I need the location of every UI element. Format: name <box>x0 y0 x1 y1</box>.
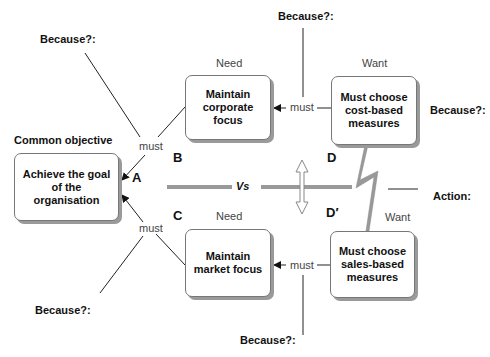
box-d-heading: Want <box>362 57 387 69</box>
box-c-need: Maintain market focus <box>185 229 271 297</box>
because-right: Because?: <box>430 104 486 116</box>
must-label-b-a: must <box>139 140 163 152</box>
box-d-text: Must choose cost-based measures <box>336 91 412 130</box>
letter-d: D <box>327 150 336 165</box>
because-top: Because?: <box>278 10 334 22</box>
because-top-left: Because?: <box>40 33 96 45</box>
box-c-text: Maintain market focus <box>190 250 266 276</box>
box-d-prime-heading: Want <box>385 211 410 223</box>
must-label-c-a: must <box>139 222 163 234</box>
box-d-prime-want: Must choose sales-based measures <box>330 231 415 298</box>
box-b-need: Maintain corporate focus <box>185 75 271 140</box>
box-c-heading: Need <box>216 210 242 222</box>
because-bottom: Because?: <box>240 334 296 346</box>
box-a-objective: Achieve the goal of the organisation <box>14 153 119 221</box>
action-label: Action: <box>433 190 471 202</box>
box-d-prime-text: Must choose sales-based measures <box>335 245 410 284</box>
must-label-d-b: must <box>290 101 314 113</box>
letter-b: B <box>173 150 182 165</box>
letter-c: C <box>173 208 182 223</box>
box-b-text: Maintain corporate focus <box>190 88 266 127</box>
letter-a: A <box>132 170 141 185</box>
box-d-want: Must choose cost-based measures <box>331 76 417 145</box>
must-label-dp-c: must <box>290 259 314 271</box>
box-a-text: Achieve the goal of the organisation <box>19 168 114 207</box>
versus-label: Vs <box>236 180 249 192</box>
common-objective-heading: Common objective <box>14 134 112 146</box>
because-bottom-left: Because?: <box>35 304 91 316</box>
letter-d-prime: D′ <box>326 205 339 220</box>
box-b-heading: Need <box>216 57 242 69</box>
